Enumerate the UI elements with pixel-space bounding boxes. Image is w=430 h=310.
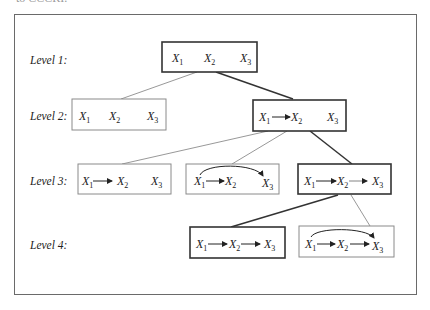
node-L2a: X1 X2 X3: [72, 99, 166, 130]
level-1-label: Level 1:: [29, 54, 67, 66]
node-L4a: X1 X2 X3: [190, 227, 285, 258]
edge-L2b-L3c: [310, 131, 352, 164]
edge-L2b-L3b: [232, 131, 287, 164]
node-L2b: X1 X2 X3: [253, 100, 346, 131]
edge-L3c-L4b: [351, 195, 370, 226]
tree-edges: [121, 72, 370, 227]
edge-L3c-L4a: [231, 195, 338, 227]
model-search-tree: Level 1: Level 2: Level 3: Level 4: X1 X…: [0, 0, 430, 310]
node-L4b: X1 X2 X3: [299, 226, 394, 257]
edge-L1-L2a: [121, 72, 197, 99]
edge-L1-L2b: [216, 72, 293, 99]
node-L3a: X1 X2 X3: [78, 164, 171, 194]
level-4-label: Level 4:: [29, 239, 67, 251]
node-L3b: X1 X2 X3: [186, 164, 279, 194]
level-2-label: Level 2:: [29, 110, 67, 122]
level-3-label: Level 3:: [29, 175, 67, 187]
edge-L2b-L3a: [122, 131, 268, 164]
node-L3c: X1 X2 X3: [298, 164, 391, 194]
node-L1: X1 X2 X3: [162, 42, 257, 72]
